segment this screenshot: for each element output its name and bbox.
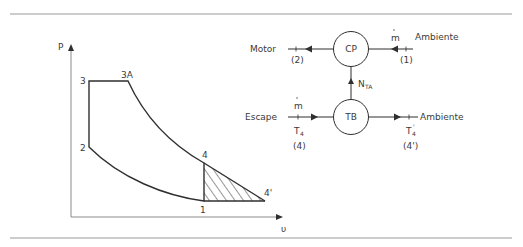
top-mass-flow-dot bbox=[393, 29, 394, 30]
exhaust-label: Escape bbox=[245, 112, 278, 122]
bottom-mass-flow-label: m bbox=[294, 101, 303, 111]
station-1-label: (1) bbox=[400, 55, 413, 65]
point-4p-label: 4' bbox=[264, 188, 272, 198]
temp-4-sub: 4 bbox=[300, 130, 304, 137]
temp-4p-label: T bbox=[405, 126, 412, 136]
y-axis-label: P bbox=[58, 42, 64, 52]
bottom-mass-flow-dot bbox=[296, 97, 297, 98]
exhaust-arrow-icon bbox=[311, 114, 318, 121]
x-axis-arrow-icon bbox=[276, 214, 283, 220]
x-axis-label: υ bbox=[281, 224, 286, 234]
turbo-schematic: CP TB N TA Motor (2) Ambiente m (1) Esca… bbox=[245, 29, 464, 151]
station-4p-label: (4') bbox=[403, 141, 418, 151]
pv-diagram: P υ 3 3A 2 4 1 4' bbox=[58, 42, 286, 234]
top-mass-flow-label: m bbox=[391, 33, 400, 43]
point-1-label: 1 bbox=[200, 205, 206, 215]
point-3a-label: 3A bbox=[121, 70, 134, 80]
shaft-arrow-icon bbox=[348, 78, 354, 84]
cycle-path bbox=[89, 81, 204, 201]
temp-4p-prime: ' bbox=[413, 123, 415, 130]
figure: P υ 3 3A 2 4 1 4' CP TB N TA Motor (2 bbox=[0, 0, 523, 247]
shaft-sub-label: TA bbox=[364, 83, 373, 90]
ambient-outlet-label: Ambiente bbox=[420, 112, 464, 122]
turbine-label: TB bbox=[344, 112, 357, 122]
point-2-label: 2 bbox=[80, 143, 86, 153]
ambient-outlet-arrow-icon bbox=[394, 114, 401, 121]
point-3-label: 3 bbox=[80, 76, 86, 86]
y-axis-arrow-icon bbox=[68, 44, 74, 51]
motor-arrow-icon bbox=[305, 46, 312, 53]
shaft-label: N bbox=[358, 79, 365, 89]
point-4-label: 4 bbox=[202, 150, 208, 160]
ambient-inlet-label: Ambiente bbox=[415, 32, 459, 42]
station-4-label: (4) bbox=[293, 141, 306, 151]
temp-4p-sub: 4 bbox=[412, 130, 416, 137]
ambient-inlet-arrow-icon bbox=[391, 46, 398, 53]
station-2-label: (2) bbox=[291, 55, 304, 65]
temp-4-label: T bbox=[293, 126, 300, 136]
compressor-label: CP bbox=[345, 44, 357, 54]
motor-label: Motor bbox=[250, 44, 276, 54]
